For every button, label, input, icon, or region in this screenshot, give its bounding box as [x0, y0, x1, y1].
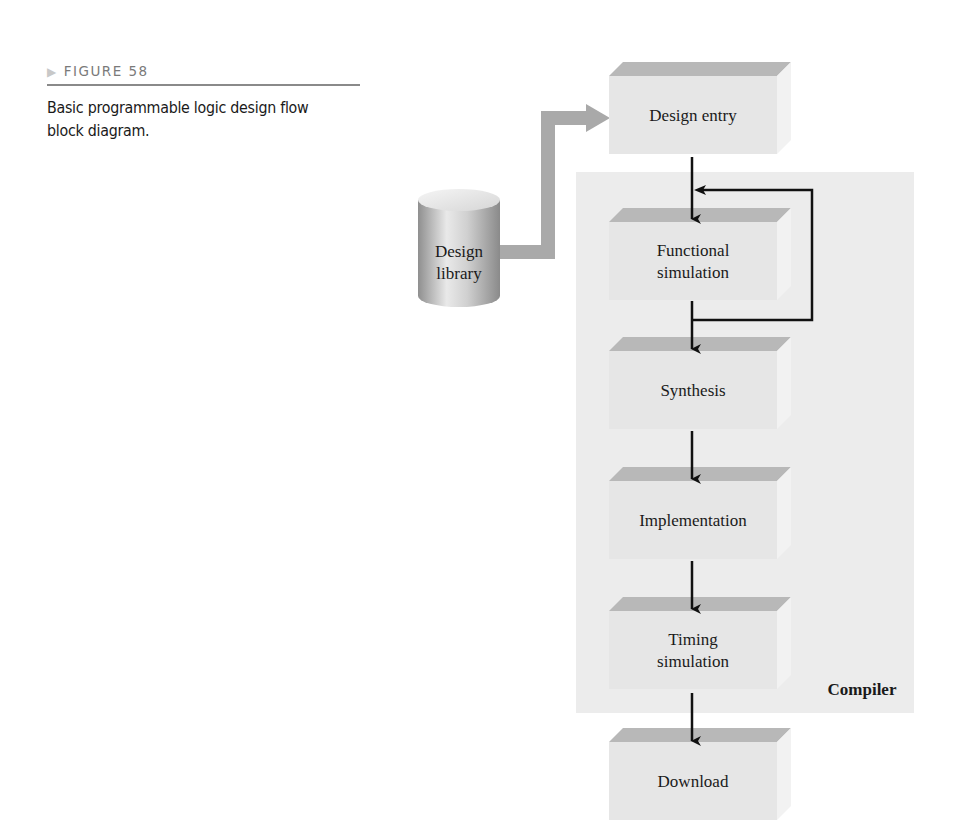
block-label: Timing	[668, 630, 718, 649]
block-synthesis: Synthesis	[609, 337, 791, 429]
block-label: Synthesis	[660, 381, 725, 400]
block-label: simulation	[657, 263, 729, 282]
block-top-face	[609, 208, 791, 222]
block-download: Download	[609, 728, 791, 820]
block-side-face	[777, 597, 791, 689]
block-side-face	[777, 467, 791, 559]
block-side-face	[777, 728, 791, 820]
block-side-face	[777, 208, 791, 300]
library-label-line2: library	[436, 264, 482, 283]
block-label: Functional	[657, 241, 730, 260]
block-label: simulation	[657, 652, 729, 671]
flow-diagram: Compiler Design library Design entryFunc…	[0, 0, 955, 838]
block-side-face	[777, 337, 791, 429]
block-top-face	[609, 337, 791, 351]
block-top-face	[609, 62, 791, 76]
block-top-face	[609, 467, 791, 481]
compiler-label: Compiler	[828, 680, 897, 699]
block-top-face	[609, 597, 791, 611]
block-functional-simulation: Functionalsimulation	[609, 208, 791, 300]
library-label-line1: Design	[435, 242, 484, 261]
block-label: Download	[658, 772, 729, 791]
block-design-entry: Design entry	[609, 62, 791, 154]
block-front-face	[609, 611, 777, 689]
block-top-face	[609, 728, 791, 742]
block-side-face	[777, 62, 791, 154]
block-timing-simulation: Timingsimulation	[609, 597, 791, 689]
design-library-cylinder: Design library	[418, 189, 500, 307]
block-label: Implementation	[639, 511, 747, 530]
block-front-face	[609, 222, 777, 300]
block-implementation: Implementation	[609, 467, 791, 559]
block-label: Design entry	[649, 106, 737, 125]
